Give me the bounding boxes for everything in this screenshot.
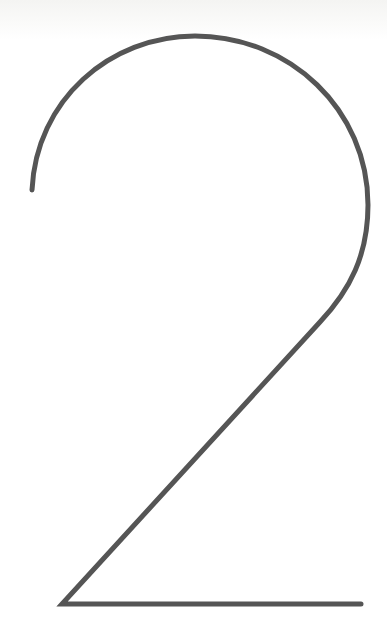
numeral-two-icon (0, 0, 387, 627)
numeral-two-stroke (32, 36, 368, 604)
canvas: 2 (0, 0, 387, 627)
